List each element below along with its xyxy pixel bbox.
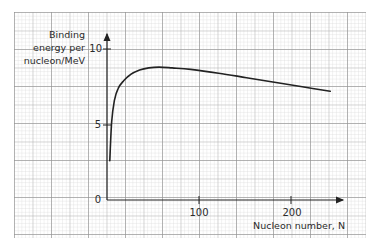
x-tick-label-200: 200 (282, 207, 301, 218)
y-axis-title-line2: energy per (33, 42, 85, 53)
y-axis-title-line3: nucleon/MeV (24, 55, 86, 66)
x-tick-label-100: 100 (189, 207, 208, 218)
x-axis-title: Nucleon number, N (253, 220, 345, 231)
y-axis-title-line1: Binding (49, 29, 85, 40)
y-tick-label-5: 5 (95, 119, 101, 130)
y-tick-label-10: 10 (89, 43, 102, 54)
binding-energy-chart: 10 5 0 100 200 Binding energy per nucleo… (0, 0, 376, 250)
origin-label: 0 (95, 194, 101, 205)
